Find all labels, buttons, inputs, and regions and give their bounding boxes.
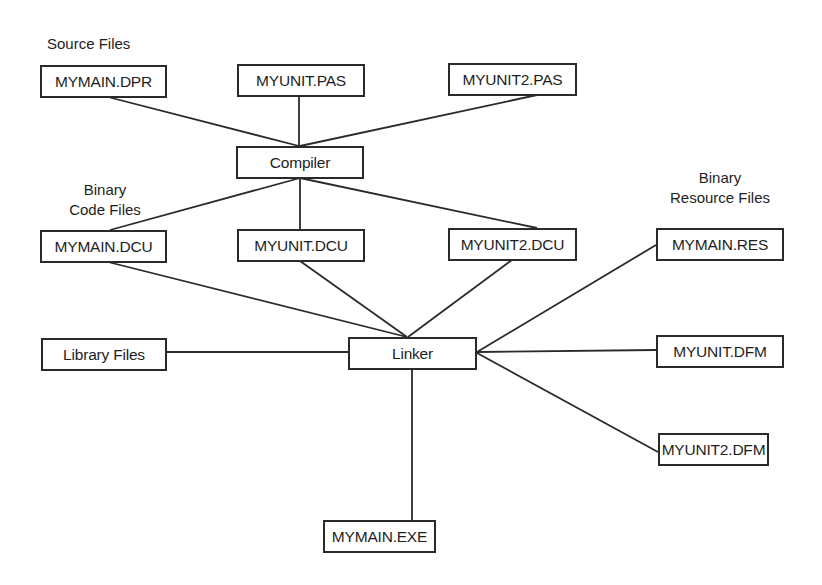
edge-pas2-compiler xyxy=(300,95,537,146)
node-myunit-pas: MYUNIT.PAS xyxy=(237,64,365,97)
edge-mymain-dcu-linker xyxy=(108,262,407,337)
binary-code-label-line1: Binary xyxy=(60,180,150,200)
node-mymain-dpr: MYMAIN.DPR xyxy=(40,65,167,98)
binary-resource-label-line1: Binary xyxy=(660,168,780,188)
node-myunit-dfm: MYUNIT.DFM xyxy=(656,335,784,368)
node-myunit2-pas: MYUNIT2.PAS xyxy=(448,63,577,96)
edge-compiler-myunit2-dcu xyxy=(300,178,537,228)
edge-res-linker xyxy=(477,245,656,352)
edge-myunit2-dcu-linker xyxy=(408,260,512,337)
edge-dfm2-linker xyxy=(477,353,658,452)
node-myunit2-dcu: MYUNIT2.DCU xyxy=(448,228,577,261)
node-myunit-dcu: MYUNIT.DCU xyxy=(237,229,365,262)
binary-resource-label-line2: Resource Files xyxy=(660,188,780,208)
binary-code-files-label: Binary Code Files xyxy=(60,180,150,220)
compile-link-diagram: Source Files Binary Code Files Binary Re… xyxy=(0,0,822,585)
node-mymain-exe: MYMAIN.EXE xyxy=(323,520,436,553)
edge-dpr-compiler xyxy=(108,97,299,146)
binary-code-label-line2: Code Files xyxy=(60,200,150,220)
edge-dfm-linker xyxy=(477,350,656,352)
node-mymain-dcu: MYMAIN.DCU xyxy=(40,230,167,263)
node-compiler: Compiler xyxy=(236,146,364,179)
binary-resource-files-label: Binary Resource Files xyxy=(660,168,780,208)
source-files-label: Source Files xyxy=(47,34,130,54)
node-linker: Linker xyxy=(348,337,477,370)
edge-myunit-dcu-linker xyxy=(300,261,407,337)
node-myunit2-dfm: MYUNIT2.DFM xyxy=(658,433,769,466)
node-mymain-res: MYMAIN.RES xyxy=(656,228,784,261)
node-library-files: Library Files xyxy=(41,338,167,371)
